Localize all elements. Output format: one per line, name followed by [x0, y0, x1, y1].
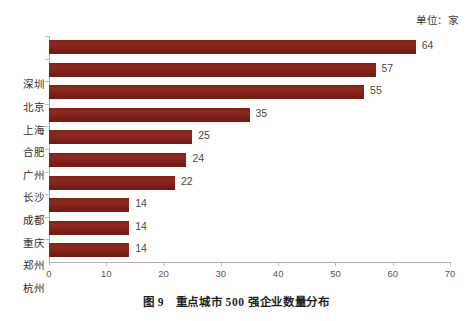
bar-value-label: 64	[422, 39, 434, 51]
x-axis-tick-label: 40	[273, 268, 284, 279]
bar-row: 64	[49, 36, 450, 59]
y-axis-tick	[45, 36, 49, 37]
category-label: 深圳	[23, 76, 44, 91]
bar-value-label: 22	[181, 175, 193, 187]
x-axis-tick	[221, 262, 222, 266]
x-axis-tick-label: 30	[216, 268, 227, 279]
x-axis-tick	[278, 262, 279, 266]
y-axis-tick	[45, 172, 49, 173]
bar	[49, 221, 129, 235]
bar-value-label: 14	[135, 220, 147, 232]
figure-chart: 单位：家 深圳北京上海合肥广州长沙成都重庆郑州杭州 64575535252422…	[0, 0, 472, 321]
x-axis-tick-label: 50	[330, 268, 341, 279]
bar	[49, 243, 129, 257]
plot-area: 64575535252422141414010203040506070	[49, 36, 450, 262]
x-axis-line	[49, 262, 450, 263]
x-axis-tick	[393, 262, 394, 266]
bar-value-label: 14	[135, 197, 147, 209]
bar-row: 24	[49, 149, 450, 172]
bar-row: 57	[49, 59, 450, 82]
bar-row: 14	[49, 217, 450, 240]
category-label: 上海	[23, 122, 44, 137]
y-axis-tick	[45, 149, 49, 150]
category-axis-labels: 深圳北京上海合肥广州长沙成都重庆郑州杭州	[0, 36, 44, 262]
figure-caption: 图 9 重点城市 500 强企业数量分布	[0, 293, 472, 309]
bar	[49, 63, 376, 77]
x-axis-tick	[335, 262, 336, 266]
bar-row: 14	[49, 194, 450, 217]
y-axis-tick	[45, 217, 49, 218]
bar-row: 35	[49, 104, 450, 127]
category-label: 重庆	[23, 235, 44, 250]
y-axis-tick	[45, 239, 49, 240]
category-label: 郑州	[23, 257, 44, 272]
bar-value-label: 55	[370, 84, 382, 96]
bar-row: 14	[49, 239, 450, 262]
bar	[49, 108, 250, 122]
x-axis-tick	[49, 262, 50, 266]
bar	[49, 40, 416, 54]
unit-note: 单位：家	[416, 12, 458, 27]
bar	[49, 85, 364, 99]
y-axis-tick	[45, 59, 49, 60]
x-axis-tick-label: 60	[387, 268, 398, 279]
x-axis-tick	[106, 262, 107, 266]
x-axis-tick-label: 20	[158, 268, 169, 279]
y-axis-tick	[45, 194, 49, 195]
category-label: 长沙	[23, 189, 44, 204]
category-label: 广州	[23, 167, 44, 182]
bar	[49, 130, 192, 144]
bar-value-label: 14	[135, 242, 147, 254]
bar-row: 25	[49, 126, 450, 149]
category-label: 成都	[23, 212, 44, 227]
y-axis-tick	[45, 81, 49, 82]
bar-value-label: 35	[256, 107, 268, 119]
y-axis-tick	[45, 126, 49, 127]
x-axis-tick-label: 10	[101, 268, 112, 279]
bar-value-label: 24	[192, 152, 204, 164]
x-axis-tick-label: 0	[46, 268, 51, 279]
y-axis-tick	[45, 104, 49, 105]
bar-row: 55	[49, 81, 450, 104]
x-axis-tick-label: 70	[445, 268, 456, 279]
bar-value-label: 25	[198, 129, 210, 141]
bar	[49, 153, 186, 167]
category-label: 合肥	[23, 144, 44, 159]
bar-row: 22	[49, 172, 450, 195]
bar	[49, 176, 175, 190]
category-label: 北京	[23, 99, 44, 114]
x-axis-tick	[450, 262, 451, 266]
x-axis-tick	[164, 262, 165, 266]
bar	[49, 198, 129, 212]
bar-value-label: 57	[382, 62, 394, 74]
